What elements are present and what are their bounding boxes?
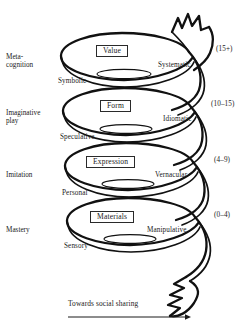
age-label-15-plus: (15+) xyxy=(216,46,233,54)
coil3-inner-ellipse xyxy=(102,180,154,189)
inner-label-sensory: Sensory xyxy=(64,243,88,251)
caption-towards-social-sharing: Towards social sharing xyxy=(68,299,138,308)
boxed-label-value: Value xyxy=(96,45,128,57)
right-label-systematic: Systematic xyxy=(158,62,191,70)
coil4-left-band-edge xyxy=(67,221,68,225)
coil2-left-band-edge xyxy=(63,111,64,115)
stage-label-text: Imitation xyxy=(6,171,32,179)
spiral-development-figure: .ln { fill:none; stroke:#111111; stroke-… xyxy=(0,0,250,329)
stage-label-text: Meta- cognition xyxy=(6,53,33,69)
right-label-manipulative: Manipulative xyxy=(147,227,187,235)
torn-bottom-edge xyxy=(168,277,186,316)
arrow-right-icon xyxy=(68,313,192,321)
coil1-inner-ellipse xyxy=(97,69,151,78)
boxed-label-form: Form xyxy=(100,100,131,112)
boxed-label-materials: Materials xyxy=(90,211,134,223)
age-label-0-4: (0–4) xyxy=(214,212,230,220)
stage-label-text: Imaginative play xyxy=(6,109,40,125)
coil1-left-band-edge xyxy=(61,56,62,60)
inner-label-symbolic: Symbolic xyxy=(58,78,86,86)
age-label-4-9: (4–9) xyxy=(214,157,230,165)
stage-label-imitation: Imitation xyxy=(6,172,52,180)
stage-label-imaginative-play: Imaginative play xyxy=(6,110,52,126)
right-label-vernacular: Vernacular xyxy=(155,172,187,180)
torn-top-edge xyxy=(172,14,209,32)
age-label-10-15: (10–15) xyxy=(211,101,234,109)
coil4-inner-ellipse xyxy=(104,235,156,244)
right-label-idiomatic: Idiomatic xyxy=(163,116,191,124)
stage-label-meta-cognition: Meta- cognition xyxy=(6,54,52,70)
torn-bottom-right-side xyxy=(170,281,198,316)
boxed-label-expression: Expression xyxy=(86,156,135,168)
coil2-inner-ellipse xyxy=(100,125,152,134)
coil3-left-band-edge xyxy=(65,166,66,170)
inner-label-personal: Personal xyxy=(62,190,88,198)
stage-label-mastery: Mastery xyxy=(6,227,52,235)
inner-label-speculative: Speculative xyxy=(60,134,95,142)
stage-label-text: Mastery xyxy=(6,226,30,234)
